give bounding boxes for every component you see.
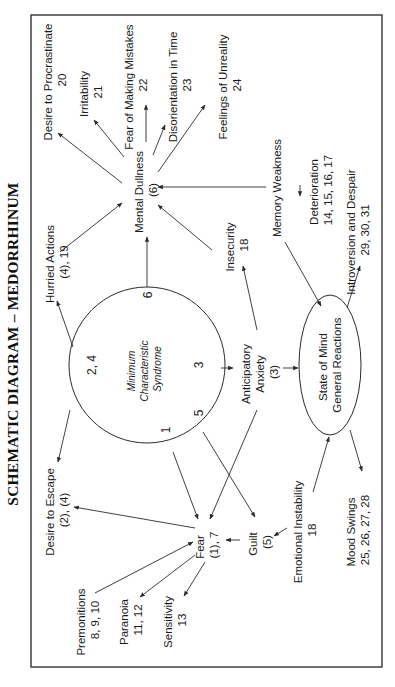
node-deterioration: Deterioration 14, 15, 16, 17 xyxy=(304,155,334,225)
arrow-md-procrastinate xyxy=(58,133,122,183)
node-emotional-instability: Emotional Instability 18 xyxy=(288,477,318,583)
node-hurried-actions: Hurried Actions (4), 19 xyxy=(40,221,70,303)
node-memory-weakness: Memory Weakness xyxy=(271,139,283,237)
arrow-anxiety-insecurity xyxy=(243,266,257,330)
node-unreality: Feelings of Unreality 24 xyxy=(213,31,243,140)
arrow-fear-sensitivity xyxy=(184,562,205,596)
arrow-state-mood xyxy=(350,430,362,471)
node-introversion: Introversion and Despair 29, 30, 31 xyxy=(341,165,371,294)
rotated-page: SCHEMATIC DIAGRAM – MEDORRHINUM Minimum … xyxy=(4,15,382,667)
node-fear-mistakes: Fear of Making Mistakes 22 xyxy=(119,20,149,149)
syndrome-label: Minimum Characteristic Syndrome xyxy=(121,336,163,401)
node-desire-procrastinate: Desire to Procrastinate 20 xyxy=(38,20,68,141)
arrow-emotional-guilt xyxy=(274,528,287,536)
node-guilt: Guilt (5) xyxy=(243,528,273,556)
arrow-emotional-state xyxy=(313,437,329,492)
node-fear: Fear (1), 7 xyxy=(190,531,220,559)
marker-6: 6 xyxy=(141,291,155,298)
marker-2-4: 2, 4 xyxy=(85,355,99,375)
node-desire-escape: Desire to Escape (2), (4) xyxy=(40,464,70,556)
state-of-mind-ellipse xyxy=(299,295,361,435)
diagram-canvas: SCHEMATIC DIAGRAM – MEDORRHINUM Minimum … xyxy=(0,0,395,687)
arrow-syndrome-fear xyxy=(173,452,198,519)
node-premonitions: Premonitions 8, 9, 10 xyxy=(71,584,101,655)
arrow-syndrome-hurried xyxy=(57,301,73,347)
marker-3: 3 xyxy=(192,361,206,368)
node-mental-dullness: Mental Dullness (6) xyxy=(129,147,159,233)
node-irritability: Irritability 21 xyxy=(74,67,104,117)
state-of-mind-label: State of Mind General Reactions xyxy=(313,317,343,412)
node-paranoia: Paranoia 11, 12 xyxy=(114,595,144,645)
arrow-fear-escape xyxy=(74,507,195,528)
node-insecurity: Insecurity 18 xyxy=(220,218,250,271)
node-mood-swings: Mood Swings 25, 26, 27, 28 xyxy=(341,493,371,566)
arrow-md-irritability xyxy=(94,120,124,157)
marker-1: 1 xyxy=(159,426,173,433)
arrow-insecurity-md xyxy=(158,205,212,250)
diagram-title: SCHEMATIC DIAGRAM – MEDORRHINUM xyxy=(4,182,21,505)
arrow-memory-state xyxy=(285,242,321,306)
node-anticipatory-anxiety: Anticipatory Anxiety (3) xyxy=(236,340,280,404)
arrow-md-disorientation xyxy=(153,125,165,155)
arrow-syndrome-escape xyxy=(58,410,70,462)
arrow-anxiety-fear xyxy=(210,410,257,519)
arrow-md-unreality xyxy=(158,105,205,172)
marker-5: 5 xyxy=(192,409,206,416)
node-disorientation: Disorientation in Time 23 xyxy=(163,28,193,143)
node-sensitivity: Sensitivity 13 xyxy=(158,592,188,648)
arrow-hurried-md xyxy=(60,203,122,252)
